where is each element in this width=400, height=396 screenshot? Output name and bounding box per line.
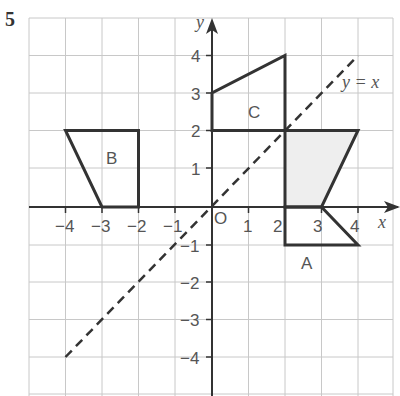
- x-tick: −2: [127, 217, 146, 236]
- x-tick: −1: [163, 217, 182, 236]
- y-axis-label: y: [194, 12, 204, 32]
- mirror-line-label: y = x: [340, 72, 379, 92]
- shape-c-label: C: [248, 103, 260, 122]
- shape-a-label: A: [301, 254, 313, 273]
- y-tick: −1: [180, 237, 199, 256]
- y-tick: −2: [180, 274, 199, 293]
- y-tick: 4: [191, 47, 200, 66]
- x-tick: 4: [350, 217, 359, 236]
- y-tick: −3: [180, 311, 199, 330]
- y-tick: 2: [191, 122, 200, 141]
- shape-b-label: B: [106, 149, 117, 168]
- x-axis-label: x: [377, 212, 386, 232]
- x-tick: −4: [55, 217, 74, 236]
- x-tick: −3: [91, 217, 110, 236]
- x-tick: 2: [273, 217, 282, 236]
- y-tick: 3: [191, 85, 200, 104]
- y-tick: −4: [180, 349, 199, 368]
- shaded-shape: [285, 131, 358, 208]
- coordinate-grid-diagram: −4 −3 −2 −1 1 2 3 4 4 3 2 1 −1 −2 −3 −4 …: [0, 0, 400, 396]
- y-tick: 1: [191, 160, 200, 179]
- x-tick: 3: [313, 217, 322, 236]
- origin-label: O: [214, 209, 227, 228]
- x-tick: 1: [243, 217, 252, 236]
